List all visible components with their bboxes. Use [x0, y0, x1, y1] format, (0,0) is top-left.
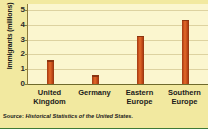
- bar: [47, 60, 54, 84]
- plot-area: 012345: [27, 4, 208, 85]
- y-axis-tick-label: 2: [21, 50, 25, 58]
- y-axis-title: Immigrants (millions): [5, 0, 15, 75]
- bar-chart-figure: Immigrants (millions) 012345 UnitedKingd…: [0, 0, 208, 131]
- bar-cap: [47, 60, 54, 62]
- y-axis-tick-label: 0: [21, 80, 25, 88]
- bar-cap: [92, 75, 99, 77]
- bottom-margin-strip: [0, 129, 208, 131]
- x-axis-category-label-line: Kingdom: [33, 97, 66, 106]
- y-axis-tick-label: 3: [21, 36, 25, 44]
- gridline: [28, 40, 208, 41]
- y-axis-tick-mark: [25, 69, 28, 70]
- x-axis-category-label-line: Southern: [168, 88, 201, 97]
- y-axis-tick-mark: [25, 54, 28, 55]
- x-axis-category-label-line: United: [33, 88, 66, 97]
- chart-plot-region: Immigrants (millions) 012345: [0, 0, 208, 90]
- x-axis-category-label-line: Europe: [126, 97, 154, 106]
- gridline: [28, 69, 208, 70]
- y-axis-tick-mark: [25, 25, 28, 26]
- bar: [137, 36, 144, 84]
- x-axis-category-label-line: Europe: [168, 97, 201, 106]
- bar: [182, 20, 189, 84]
- gridline: [28, 25, 208, 26]
- x-axis-category-label: EasternEurope: [126, 88, 154, 106]
- x-axis-category-label: Germany: [78, 88, 111, 97]
- x-axis-category-label-line: Eastern: [126, 88, 154, 97]
- x-axis-category-label: UnitedKingdom: [33, 88, 66, 106]
- gridline: [28, 54, 208, 55]
- y-axis-tick-mark: [25, 10, 28, 11]
- source-label: Source:: [3, 113, 24, 119]
- bar-cap: [182, 20, 189, 22]
- gridline: [28, 10, 208, 11]
- bar: [92, 75, 99, 84]
- source-text: Historical Statistics of the United Stat…: [25, 113, 133, 119]
- y-axis-tick-label: 1: [21, 65, 25, 73]
- y-axis-tick-label: 5: [21, 6, 25, 14]
- y-axis-tick-mark: [25, 84, 28, 85]
- x-axis-category-label: SouthernEurope: [168, 88, 201, 106]
- x-axis-category-labels: UnitedKingdomGermanyEasternEuropeSouther…: [27, 88, 208, 112]
- source-note: Source: Historical Statistics of the Uni…: [3, 113, 133, 120]
- y-axis-tick-label: 4: [21, 21, 25, 29]
- y-axis-tick-mark: [25, 40, 28, 41]
- x-axis-category-label-line: Germany: [78, 88, 111, 97]
- bar-cap: [137, 36, 144, 38]
